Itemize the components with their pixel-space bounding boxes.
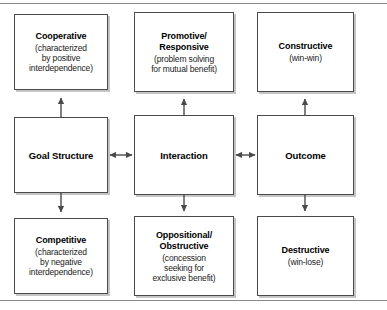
connector-layer [0, 0, 387, 310]
diagram-canvas: Cooperative (characterized by positive i… [0, 0, 387, 310]
